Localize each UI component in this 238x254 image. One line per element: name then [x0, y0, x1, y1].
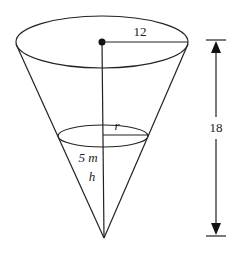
cone-axis [102, 42, 104, 238]
arrow-down-icon [211, 223, 221, 235]
water-depth-var-label: h [89, 169, 96, 184]
height-label: 18 [210, 120, 223, 135]
cone-left-side [16, 44, 104, 238]
cone-diagram: 12 r 5 m h 18 [0, 0, 238, 254]
cone-right-side [104, 44, 188, 238]
arrow-up-icon [211, 41, 221, 53]
water-depth-value-label: 5 m [78, 150, 97, 165]
top-radius-label: 12 [134, 24, 147, 39]
